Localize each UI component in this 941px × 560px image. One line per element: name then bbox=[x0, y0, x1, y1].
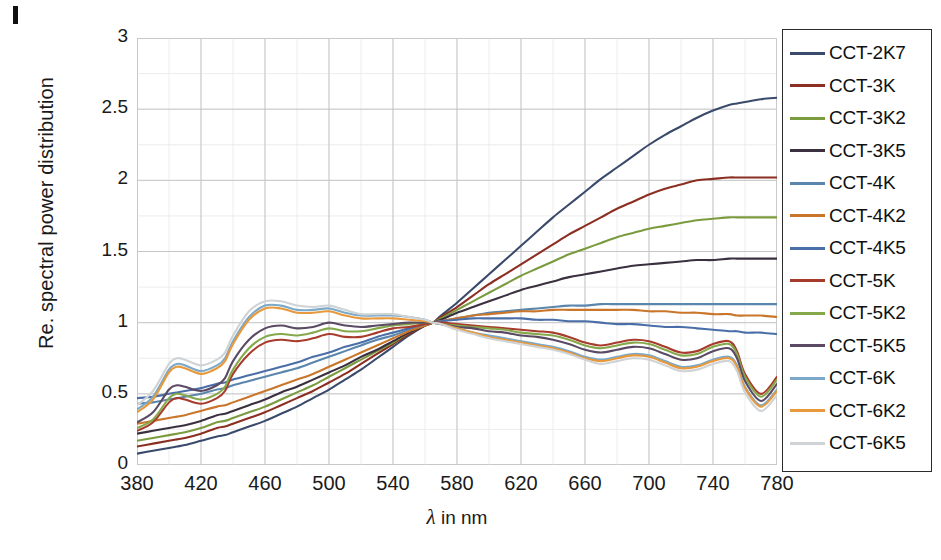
legend-item-cct-4k2[interactable]: CCT-4K2 bbox=[783, 200, 931, 233]
legend-item-label: CCT-5K5 bbox=[829, 335, 906, 357]
y-tick-label: 0.5 bbox=[0, 381, 128, 403]
x-tick-label: 380 bbox=[120, 472, 153, 495]
plot-area bbox=[137, 38, 777, 465]
x-tick-label: 460 bbox=[248, 472, 281, 495]
chart-page: Re. spectral power distribution 00.511.5… bbox=[0, 0, 941, 560]
legend-item-label: CCT-4K bbox=[829, 172, 895, 194]
x-tick-label: 540 bbox=[376, 472, 409, 495]
x-tick-label: 740 bbox=[696, 472, 729, 495]
legend-item-label: CCT-5K bbox=[829, 270, 895, 292]
legend-item-label: CCT-6K2 bbox=[829, 400, 906, 422]
legend-item-cct-4k[interactable]: CCT-4K bbox=[783, 167, 931, 200]
legend: CCT-2K7CCT-3KCCT-3K2CCT-3K5CCT-4KCCT-4K2… bbox=[782, 29, 932, 472]
lambda-symbol: λ bbox=[427, 505, 436, 529]
x-axis-label: λ in nm bbox=[137, 505, 777, 530]
legend-item-label: CCT-2K7 bbox=[829, 42, 906, 64]
y-tick-label: 0 bbox=[0, 452, 128, 474]
legend-color-swatch bbox=[790, 214, 825, 217]
legend-color-swatch bbox=[790, 377, 825, 380]
x-tick-label: 660 bbox=[568, 472, 601, 495]
legend-color-swatch bbox=[790, 182, 825, 185]
y-tick-label: 1.5 bbox=[0, 239, 128, 261]
legend-item-cct-2k7[interactable]: CCT-2K7 bbox=[783, 37, 931, 70]
legend-color-swatch bbox=[790, 279, 825, 282]
legend-item-label: CCT-3K bbox=[829, 75, 895, 97]
legend-color-swatch bbox=[790, 52, 825, 55]
legend-item-cct-5k2[interactable]: CCT-5K2 bbox=[783, 297, 931, 330]
y-axis-label: Re. spectral power distribution bbox=[35, 3, 58, 423]
x-tick-label: 620 bbox=[504, 472, 537, 495]
legend-item-label: CCT-5K2 bbox=[829, 302, 906, 324]
legend-color-swatch bbox=[790, 312, 825, 315]
x-tick-label: 500 bbox=[312, 472, 345, 495]
legend-item-label: CCT-3K5 bbox=[829, 140, 906, 162]
legend-color-swatch bbox=[790, 409, 825, 412]
legend-item-cct-6k[interactable]: CCT-6K bbox=[783, 362, 931, 395]
legend-color-swatch bbox=[790, 344, 825, 347]
x-tick-label: 580 bbox=[440, 472, 473, 495]
legend-item-cct-6k2[interactable]: CCT-6K2 bbox=[783, 395, 931, 428]
legend-item-cct-6k5[interactable]: CCT-6K5 bbox=[783, 427, 931, 460]
legend-item-label: CCT-3K2 bbox=[829, 107, 906, 129]
legend-item-label: CCT-4K2 bbox=[829, 205, 906, 227]
legend-item-label: CCT-6K bbox=[829, 367, 895, 389]
legend-item-label: CCT-4K5 bbox=[829, 237, 906, 259]
legend-item-cct-5k5[interactable]: CCT-5K5 bbox=[783, 330, 931, 363]
legend-color-swatch bbox=[790, 442, 825, 445]
legend-color-swatch bbox=[790, 247, 825, 250]
x-tick-label: 420 bbox=[184, 472, 217, 495]
y-tick-label: 1 bbox=[0, 310, 128, 332]
x-tick-label: 780 bbox=[760, 472, 793, 495]
y-tick-label: 2.5 bbox=[0, 96, 128, 118]
legend-item-label: CCT-6K5 bbox=[829, 432, 906, 454]
x-tick-label: 700 bbox=[632, 472, 665, 495]
legend-item-cct-3k[interactable]: CCT-3K bbox=[783, 70, 931, 103]
legend-color-swatch bbox=[790, 84, 825, 87]
legend-color-swatch bbox=[790, 117, 825, 120]
chart-canvas bbox=[137, 38, 777, 465]
legend-item-cct-3k5[interactable]: CCT-3K5 bbox=[783, 135, 931, 168]
legend-item-cct-4k5[interactable]: CCT-4K5 bbox=[783, 232, 931, 265]
y-tick-label: 2 bbox=[0, 167, 128, 189]
scan-artifact-mark bbox=[13, 6, 18, 24]
legend-item-cct-5k[interactable]: CCT-5K bbox=[783, 265, 931, 298]
legend-color-swatch bbox=[790, 149, 825, 152]
y-tick-label: 3 bbox=[0, 25, 128, 47]
legend-item-cct-3k2[interactable]: CCT-3K2 bbox=[783, 102, 931, 135]
